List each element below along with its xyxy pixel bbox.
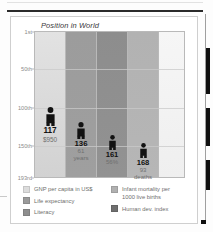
legend-swatch-icon — [23, 209, 30, 216]
marker-detail-unit: years — [64, 155, 98, 162]
legend-label: Human dev. index — [122, 205, 168, 213]
top-rule-divider — [7, 10, 203, 12]
marker-detail-unit: deaths — [127, 174, 159, 181]
y-tick-label-150th: 150th — [18, 143, 32, 149]
marker-infant-mortality: 168 93 deaths — [127, 143, 159, 180]
person-icon — [139, 143, 148, 158]
top-hairline — [7, 2, 203, 3]
right-edge-mark-foot — [201, 220, 206, 224]
marker-life-expectancy: 136 61 years — [64, 122, 98, 162]
marker-literacy: 161 56% — [96, 135, 128, 166]
gridline-50th — [35, 69, 184, 70]
left-margin-tick — [0, 196, 7, 197]
legend-item-gnp[interactable]: GNP per capita in US$ — [23, 185, 109, 193]
marker-gnp: 117 $950 — [33, 107, 67, 143]
y-tick-label-193rd: 193rd — [18, 175, 32, 181]
y-tick-label-50th: 50th — [21, 66, 32, 72]
y-tick-label-100th: 100th — [18, 105, 32, 111]
legend-item-human-dev-index[interactable]: Human dev. index — [111, 205, 193, 213]
legend-column-left: GNP per capita in US$ Life expectancy Li… — [23, 185, 109, 220]
legend-label: Infant mortality per 1000 live births — [122, 185, 170, 202]
legend-column-right: Infant mortality per 1000 live births Hu… — [111, 185, 193, 217]
chart-title: Position in World — [41, 21, 99, 30]
right-edge-mark-top — [206, 48, 210, 94]
marker-rank: 117 — [33, 127, 67, 136]
page-canvas: Position in World 1st 50th 100th 150th 1… — [0, 0, 213, 232]
legend-item-life-expectancy[interactable]: Life expectancy — [23, 197, 109, 205]
column-gnp — [35, 32, 66, 177]
person-icon — [76, 122, 86, 139]
person-icon — [108, 135, 117, 150]
legend-label: Literacy — [34, 208, 54, 216]
column-human-dev-index — [159, 32, 185, 177]
marker-rank: 161 — [96, 151, 128, 159]
legend-label: GNP per capita in US$ — [34, 185, 93, 193]
right-edge-mark-bottom — [206, 160, 210, 190]
y-axis: 1st 50th 100th 150th 193rd — [11, 31, 32, 178]
marker-detail: 56% — [96, 159, 128, 166]
legend-swatch-icon — [111, 186, 118, 193]
legend-item-infant-mortality[interactable]: Infant mortality per 1000 live births — [111, 185, 193, 202]
marker-detail: 93 — [127, 167, 159, 174]
legend-item-literacy[interactable]: Literacy — [23, 208, 109, 216]
chart-legend: GNP per capita in US$ Life expectancy Li… — [23, 185, 189, 221]
legend-swatch-icon — [23, 186, 30, 193]
legend-label: Life expectancy — [34, 197, 74, 205]
legend-swatch-icon — [23, 197, 30, 204]
right-edge-mark-middle — [206, 108, 210, 146]
marker-detail: $950 — [33, 136, 67, 143]
person-icon — [45, 107, 56, 126]
figure-panel: Position in World 1st 50th 100th 150th 1… — [10, 16, 198, 224]
y-tick-label-1st: 1st — [25, 29, 32, 35]
legend-swatch-icon — [111, 205, 118, 212]
marker-rank: 168 — [127, 159, 159, 167]
